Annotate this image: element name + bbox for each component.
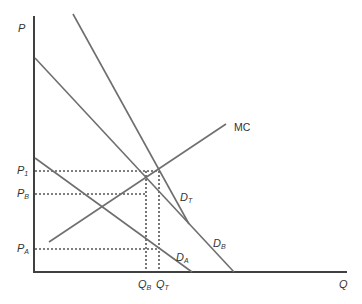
- demand-a-label: DA: [176, 251, 189, 264]
- demand-total-label: DT: [180, 191, 193, 204]
- quantity-axis-label: Q: [339, 278, 348, 290]
- mc-label: MC: [234, 121, 251, 133]
- qt-label: QT: [156, 278, 170, 291]
- price-axis-label: P: [18, 22, 26, 34]
- pa-label: PA: [17, 242, 29, 255]
- pb-label: PB: [17, 187, 29, 200]
- demand-b-label: DB: [213, 237, 226, 250]
- qb-label: QB: [138, 278, 152, 291]
- marginal-cost-curve: [49, 124, 226, 242]
- demand-total-curve: [73, 14, 189, 224]
- public-good-demand-diagram: P Q MC DT DB DA P1 PB PA QB QT: [0, 0, 362, 304]
- p1-label: P1: [17, 164, 28, 177]
- demand-a-curve: [35, 158, 192, 272]
- demand-b-curve: [35, 58, 234, 272]
